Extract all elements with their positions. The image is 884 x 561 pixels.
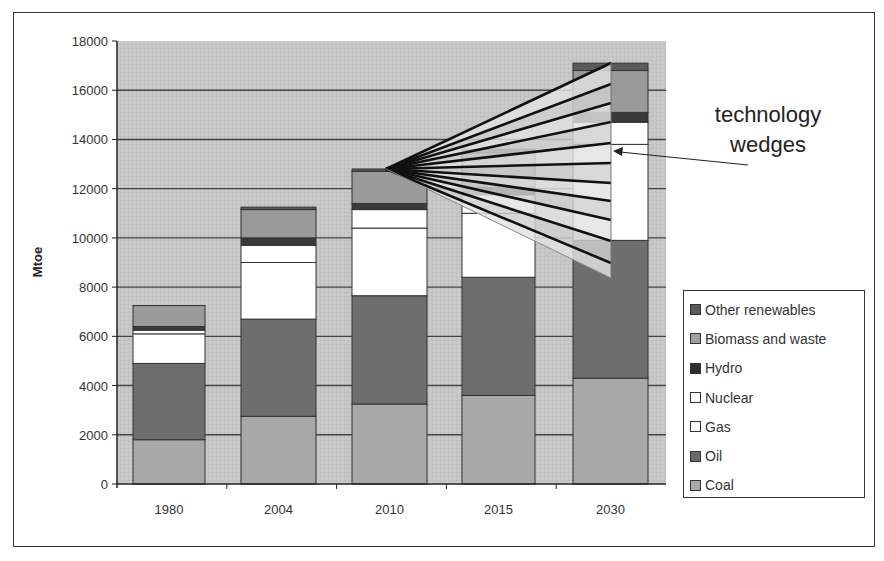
legend-label: Coal	[705, 477, 734, 493]
legend-label: Other renewables	[705, 302, 816, 318]
legend-item-coal: Coal	[690, 471, 864, 500]
legend-swatch-icon	[690, 451, 701, 462]
segment-gas	[241, 263, 316, 320]
segment-biomass-and-waste	[241, 210, 316, 238]
y-tick-label: 16000	[72, 83, 108, 98]
bar-1980	[133, 306, 205, 484]
segment-oil	[241, 319, 316, 416]
segment-coal	[241, 416, 316, 484]
legend-item-hydro: Hydro	[690, 354, 864, 383]
segment-nuclear	[241, 245, 316, 262]
legend-item-other-renewables: Other renewables	[690, 295, 864, 324]
legend: Other renewablesBiomass and wasteHydroNu…	[683, 290, 865, 498]
y-tick-label: 4000	[79, 379, 108, 394]
y-tick-label: 0	[101, 477, 108, 492]
legend-swatch-icon	[690, 333, 701, 344]
y-tick-label: 10000	[72, 231, 108, 246]
legend-swatch-icon	[690, 421, 701, 432]
legend-label: Nuclear	[705, 390, 753, 406]
y-axis-label: Mtoe	[30, 247, 45, 277]
legend-swatch-icon	[690, 363, 701, 374]
segment-biomass-and-waste	[133, 306, 205, 327]
segment-coal	[133, 440, 205, 484]
y-tick-label: 18000	[72, 34, 108, 49]
segment-hydro	[352, 203, 427, 209]
legend-swatch-icon	[690, 304, 701, 315]
segment-nuclear	[133, 330, 205, 334]
x-tick-label: 2010	[375, 502, 404, 517]
annotation-line-1: technology	[698, 100, 838, 130]
segment-coal	[352, 404, 427, 484]
x-tick-label: 2015	[484, 502, 513, 517]
segment-coal	[573, 378, 648, 484]
segment-coal	[462, 395, 535, 484]
x-tick-label: 2004	[264, 502, 293, 517]
annotation-line-2: wedges	[698, 130, 838, 160]
legend-item-nuclear: Nuclear	[690, 383, 864, 412]
y-tick-label: 8000	[79, 280, 108, 295]
segment-gas	[133, 334, 205, 364]
legend-item-oil: Oil	[690, 441, 864, 470]
x-axis-ticks: 19802004201020152030	[155, 484, 625, 517]
segment-hydro	[241, 238, 316, 245]
legend-swatch-icon	[690, 480, 701, 491]
segment-oil	[462, 277, 535, 395]
legend-swatch-icon	[690, 392, 701, 403]
x-tick-label: 1980	[155, 502, 184, 517]
y-tick-label: 12000	[72, 182, 108, 197]
legend-label: Gas	[705, 419, 731, 435]
y-axis-ticks: 0200040006000800010000120001400016000180…	[72, 34, 117, 492]
segment-hydro	[133, 326, 205, 330]
y-tick-label: 6000	[79, 329, 108, 344]
technology-wedges-annotation: technology wedges	[698, 100, 838, 160]
x-tick-label: 2030	[596, 502, 625, 517]
bar-2004	[241, 207, 316, 484]
segment-oil	[352, 296, 427, 404]
legend-item-gas: Gas	[690, 412, 864, 441]
segment-oil	[133, 363, 205, 439]
y-tick-label: 2000	[79, 428, 108, 443]
y-tick-label: 14000	[72, 132, 108, 147]
legend-item-biomass-and-waste: Biomass and waste	[690, 324, 864, 353]
legend-label: Hydro	[705, 360, 742, 376]
legend-label: Oil	[705, 448, 722, 464]
segment-nuclear	[352, 210, 427, 228]
bar-2010	[352, 169, 427, 484]
segment-other-renewables	[241, 207, 316, 209]
segment-gas	[352, 228, 427, 296]
legend-label: Biomass and waste	[705, 331, 826, 347]
